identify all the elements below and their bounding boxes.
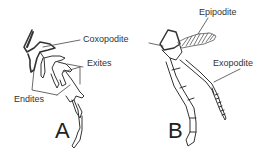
label-coxopodite: Coxopodite	[83, 35, 129, 44]
epipodite-drawing	[178, 33, 216, 48]
appendage-diagram: Coxopodite Exites Endites A Epipodite Ex…	[0, 0, 273, 154]
diagram-drawing	[0, 0, 273, 154]
label-epipodite: Epipodite	[199, 8, 237, 17]
label-exopodite: Exopodite	[213, 59, 253, 68]
label-exites: Exites	[87, 59, 112, 68]
panel-letter-a: A	[55, 120, 70, 142]
label-endites: Endites	[14, 95, 44, 104]
panel-letter-b: B	[168, 120, 183, 142]
limb-a-drawing	[24, 30, 84, 148]
